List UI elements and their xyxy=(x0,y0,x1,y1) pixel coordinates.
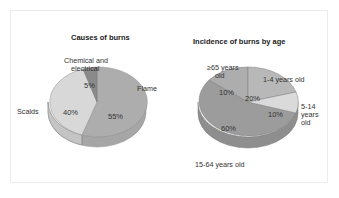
label-flame: Flame xyxy=(137,85,157,93)
causes-of-burns-pie xyxy=(0,0,339,198)
label-5-14-line3: old xyxy=(301,119,311,127)
value-chemical: 5% xyxy=(84,81,95,90)
value-5-14: 10% xyxy=(268,110,283,119)
label-chemical-line2: electrical xyxy=(71,65,99,73)
label-15-64: 15-64 years old xyxy=(195,161,245,169)
label-scalds: Scalds xyxy=(17,108,39,116)
chart-title-age: Incidence of burns by age xyxy=(193,37,286,46)
chart-title-causes: Causes of burns xyxy=(71,33,130,42)
value-scalds: 40% xyxy=(63,108,78,117)
value-15-64: 60% xyxy=(221,124,236,133)
value-65-plus: 10% xyxy=(219,88,234,97)
value-1-4: 20% xyxy=(245,94,260,103)
label-65-plus-line2: old xyxy=(215,72,225,80)
value-flame: 55% xyxy=(108,112,123,121)
label-1-4: 1-4 years old xyxy=(263,76,305,84)
